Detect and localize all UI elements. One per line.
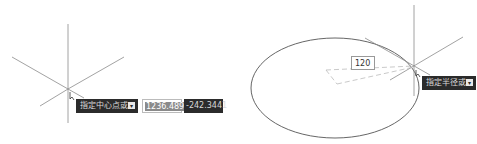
arrow-down-icon[interactable]: ▾ [128, 102, 135, 109]
y-coordinate-input[interactable]: -242.3441 [184, 99, 223, 113]
radius-prompt: 指定半径或 ▾ [422, 76, 476, 90]
radius-input[interactable]: 120 [351, 56, 375, 70]
x-coordinate-input[interactable]: 1236.4896 [142, 99, 182, 113]
ellipse-shape [251, 38, 419, 138]
drawing-canvas[interactable] [0, 0, 477, 144]
center-point-prompt: 指定中心点或 ▾ [76, 99, 138, 113]
cursor-icon-right [416, 70, 420, 77]
arrow-down-icon[interactable]: ▾ [466, 79, 473, 86]
cursor-icon [70, 92, 74, 100]
